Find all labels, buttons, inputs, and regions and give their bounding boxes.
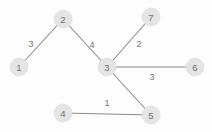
node-label-7: 7 [148, 12, 153, 23]
graph-node-4[interactable]: 4 [54, 104, 72, 122]
graph-node-2[interactable]: 2 [54, 10, 72, 28]
edge-weight-3-6: 3 [149, 72, 154, 82]
node-label-4: 4 [60, 108, 65, 119]
edge-2-3[interactable] [63, 19, 107, 67]
node-label-2: 2 [60, 14, 65, 25]
node-label-3: 3 [104, 62, 109, 73]
edge-3-5[interactable] [107, 67, 151, 115]
graph-node-7[interactable]: 7 [142, 8, 160, 26]
graph-node-6[interactable]: 6 [186, 58, 204, 76]
node-label-6: 6 [192, 62, 197, 73]
edge-1-2[interactable] [19, 19, 63, 67]
edge-weight-3-7: 2 [136, 39, 141, 49]
graph-node-1[interactable]: 1 [10, 58, 28, 76]
edge-3-7[interactable] [107, 17, 151, 67]
edge-weight-2-3: 4 [89, 40, 94, 50]
graph-svg: 3 4 2 3 1 1 2 3 4 [0, 0, 212, 132]
node-label-1: 1 [16, 62, 21, 73]
edge-weight-1-2: 3 [28, 39, 33, 49]
graph-node-5[interactable]: 5 [142, 106, 160, 124]
edge-4-5[interactable] [63, 113, 151, 115]
graph-diagram-canvas: 3 4 2 3 1 1 2 3 4 [0, 0, 212, 132]
node-label-5: 5 [148, 110, 153, 121]
edge-weight-4-5: 1 [104, 98, 109, 108]
graph-node-3[interactable]: 3 [98, 58, 116, 76]
